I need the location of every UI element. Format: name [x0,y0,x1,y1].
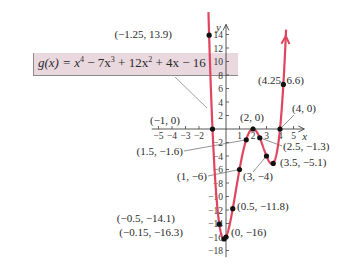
y-tick-label: −18 [208,246,223,256]
y-tick-label: 4 [218,98,223,108]
y-tick-label: −2 [213,138,223,148]
y-tick-label: 2 [218,111,223,121]
point-label: (1, −6) [177,170,207,183]
x-tick-label: −5 [153,131,163,141]
point-label: (2, 0) [240,111,264,124]
data-point-marker [217,222,222,227]
point-label: (0.5, −11.8) [237,200,289,213]
data-point-marker [237,167,242,172]
y-tick-label: 14 [214,30,224,40]
data-point-marker [264,153,269,158]
y-tick-label: 6 [218,84,223,94]
point-label: (−0.5, −14.1) [117,212,176,225]
y-tick-label: 8 [218,71,223,81]
x-tick-label: −2 [194,131,204,141]
data-point-marker [244,137,249,142]
data-point-marker [207,33,212,38]
data-point-marker [250,126,255,131]
formula-leader-line [175,77,207,108]
data-point-marker [230,206,235,211]
point-label: (4, 0) [292,102,316,115]
x-tick-label: 1 [237,131,242,141]
x-tick-label: 2 [251,131,256,141]
data-point-marker [271,161,276,166]
function-graph: xy−5−4−3−2123451412108642−2−4−6−8−10−12−… [0,0,347,277]
y-tick-label: 10 [214,57,224,67]
data-point-marker [223,234,228,239]
point-label: (2.5, −1.3) [283,140,330,153]
x-tick-label: −4 [167,131,177,141]
data-point-marker [277,126,282,131]
data-point-marker [257,135,262,140]
leader-lines [175,77,294,176]
point-label: (−1.25, 13.9) [114,28,172,41]
point-label: (−0.15, −16.3) [119,226,183,239]
y-tick-label: 12 [214,44,224,54]
point-label: (1.5, −1.6) [136,145,183,158]
point-label: (0, −16) [231,226,267,239]
point-label: (3.5, −5.1) [280,156,327,169]
point-label: (−1, 0) [150,114,180,127]
point-label: (3, −4) [243,170,273,183]
x-tick-label: −3 [180,131,190,141]
y-tick-label: −12 [208,206,223,216]
data-point-marker [210,126,215,131]
point-label: (4.25, 6.6) [258,74,304,87]
